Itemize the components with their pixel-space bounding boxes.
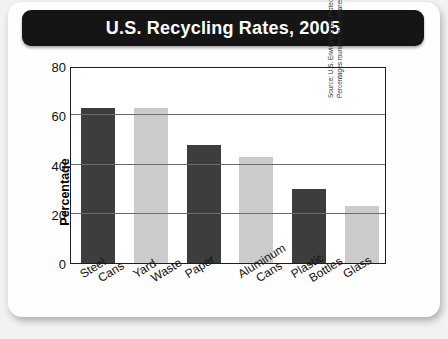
source-note-line2: Percentages rounded to the nearest whole… bbox=[336, 0, 343, 98]
title-banner: U.S. Recycling Rates, 2005 bbox=[22, 10, 424, 46]
chart-title: U.S. Recycling Rates, 2005 bbox=[106, 18, 340, 39]
source-note: Source: U.S. Environmental Protection Ag… bbox=[326, 0, 345, 98]
source-note-line1: Source: U.S. Environmental Protection Ag… bbox=[327, 0, 334, 98]
chart-card: U.S. Recycling Rates, 2005 Percentage 02… bbox=[8, 2, 440, 317]
chart-screenshot: U.S. Recycling Rates, 2005 Percentage 02… bbox=[0, 0, 448, 339]
y-tick-label: 60 bbox=[36, 109, 66, 124]
y-tick-label: 40 bbox=[36, 158, 66, 173]
y-tick-label: 20 bbox=[36, 207, 66, 222]
y-axis: Percentage 020406080 bbox=[32, 67, 66, 264]
y-tick-label: 80 bbox=[36, 60, 66, 75]
y-tick-label: 0 bbox=[36, 257, 66, 272]
bar-yard-waste bbox=[134, 108, 168, 263]
gridline bbox=[71, 114, 385, 115]
bar-steel-cans bbox=[81, 108, 115, 263]
gridline bbox=[71, 213, 385, 214]
gridline bbox=[71, 164, 385, 165]
